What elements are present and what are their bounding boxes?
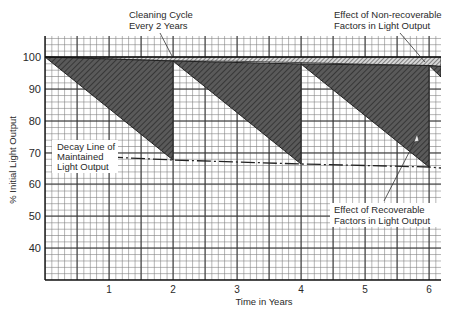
annotation-text: Effect of Recoverable <box>334 204 425 215</box>
annotation-cleaning-cycle: Cleaning Cycle Every 2 Years <box>129 9 193 31</box>
y-tick-80: 80 <box>29 115 41 127</box>
x-tick-1: 1 <box>106 284 112 295</box>
x-tick-5: 5 <box>362 284 368 295</box>
x-tick-2: 2 <box>170 284 176 295</box>
y-tick-labels: 100 90 80 70 60 50 40 <box>23 51 41 254</box>
y-tick-60: 60 <box>29 178 41 190</box>
annotation-text: Cleaning Cycle <box>129 9 193 20</box>
x-tick-labels: 1 2 3 4 5 6 <box>106 284 432 295</box>
y-tick-90: 90 <box>29 83 41 95</box>
annotation-text: Effect of Non-recoverable <box>334 9 442 20</box>
x-axis-title: Time in Years <box>235 296 292 307</box>
y-tick-70: 70 <box>29 147 41 159</box>
y-tick-100: 100 <box>23 51 41 63</box>
annotation-recoverable: Effect of Recoverable Factors in Light O… <box>334 204 430 226</box>
annotation-text: Light Output <box>57 161 109 172</box>
annotation-text: Factors in Light Output <box>334 215 430 226</box>
x-tick-6: 6 <box>426 284 432 295</box>
x-tick-4: 4 <box>298 284 304 295</box>
x-tick-3: 3 <box>234 284 240 295</box>
y-tick-50: 50 <box>29 210 41 222</box>
annotation-text: Every 2 Years <box>129 20 188 31</box>
annotation-text: Factors in Light Output <box>334 20 430 31</box>
light-depreciation-chart: 100 90 80 70 60 50 40 1 2 3 4 5 6 Time i… <box>0 0 451 313</box>
annotation-nonrecoverable: Effect of Non-recoverable Factors in Lig… <box>334 9 442 31</box>
y-axis-title: % Initial Light Output <box>7 116 18 204</box>
y-tick-40: 40 <box>29 242 41 254</box>
